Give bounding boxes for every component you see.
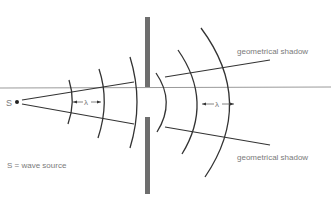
- source-label: S: [6, 98, 12, 108]
- arrowhead-left-b: [97, 101, 101, 104]
- shadow-label-bottom: geometrical shadow: [237, 153, 308, 162]
- arrowhead-right-a: [202, 103, 206, 106]
- source-point: [15, 100, 19, 104]
- arrowhead-left-a: [73, 101, 77, 104]
- legend-wave-source: S = wave source: [7, 161, 67, 170]
- wavefront-right-1: [156, 73, 166, 132]
- barrier-top: [145, 17, 150, 87]
- diagram-canvas: S λ λ geometrical shadow geometrical sha…: [0, 0, 331, 205]
- ray-bottom-left: [22, 104, 134, 124]
- ray-top-left: [22, 82, 134, 100]
- wavefront-right-2: [178, 50, 197, 154]
- wavefront-left-1: [68, 80, 72, 124]
- shadow-ray-bottom: [165, 127, 270, 145]
- wavefront-left-2: [98, 69, 104, 138]
- shadow-ray-top: [165, 60, 270, 77]
- axis-line: [0, 87, 331, 88]
- barrier-bottom: [145, 117, 150, 194]
- shadow-label-top: geometrical shadow: [237, 47, 308, 56]
- diffraction-diagram: S λ λ geometrical shadow geometrical sha…: [0, 0, 331, 205]
- arrowhead-right-b: [230, 103, 234, 106]
- lambda-label-left: λ: [84, 98, 88, 107]
- wavefront-left-3: [130, 57, 137, 148]
- lambda-label-right: λ: [215, 100, 219, 109]
